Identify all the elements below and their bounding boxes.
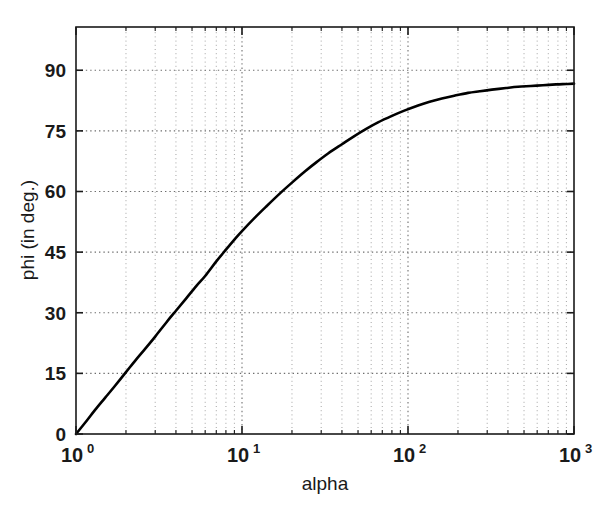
y-tick-label: 60 xyxy=(45,181,66,202)
x-tick-mantissa: 10 xyxy=(559,444,581,466)
y-tick-label: 90 xyxy=(45,60,66,81)
y-axis-title: phi (in deg.) xyxy=(17,180,38,280)
x-tick-mantissa: 10 xyxy=(393,444,415,466)
x-axis-title: alpha xyxy=(302,473,349,494)
y-tick-label: 0 xyxy=(55,424,66,445)
x-tick-exponent: 0 xyxy=(87,441,94,456)
x-tick-exponent: 1 xyxy=(253,441,260,456)
x-tick-exponent: 3 xyxy=(585,441,592,456)
x-tick-exponent: 2 xyxy=(419,441,426,456)
x-tick-mantissa: 10 xyxy=(61,444,83,466)
chart-canvas: 0153045607590 100101102103 alpha phi (in… xyxy=(0,0,612,512)
figure-container: 0153045607590 100101102103 alpha phi (in… xyxy=(0,0,612,512)
x-tick-mantissa: 10 xyxy=(227,444,249,466)
y-tick-label: 15 xyxy=(45,363,67,384)
y-tick-label: 30 xyxy=(45,303,66,324)
y-tick-label: 75 xyxy=(45,121,67,142)
y-tick-label: 45 xyxy=(45,242,67,263)
